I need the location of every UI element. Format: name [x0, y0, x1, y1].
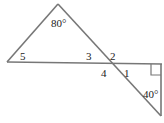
- right-angle-marker: [151, 64, 161, 75]
- bottom-angle-label: 40°: [143, 88, 158, 100]
- angle-5-label: 5: [20, 50, 26, 62]
- angle-3-label: 3: [86, 50, 92, 62]
- left-triangle-side: [7, 4, 58, 62]
- geometry-diagram: 80° 5 3 2 4 1 40°: [0, 0, 164, 123]
- angle-4-label: 4: [101, 67, 107, 79]
- angle-1-label: 1: [124, 67, 130, 79]
- angle-2-label: 2: [110, 50, 116, 62]
- apex-angle-label: 80°: [51, 17, 66, 29]
- horizontal-line: [7, 62, 162, 64]
